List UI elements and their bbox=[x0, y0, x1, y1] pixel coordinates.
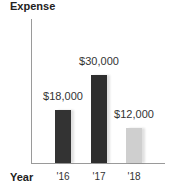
bar-2016 bbox=[55, 110, 71, 163]
x-axis-title: Year bbox=[10, 171, 33, 183]
y-axis-line bbox=[31, 19, 32, 164]
bar-value-label-2016: $18,000 bbox=[33, 90, 93, 102]
bar-value-label-2017: $30,000 bbox=[69, 55, 129, 67]
bar-2018 bbox=[126, 128, 142, 163]
bar-value-label-2018: $12,000 bbox=[104, 108, 164, 120]
x-axis-line bbox=[31, 163, 165, 164]
x-tick-2017: '17 bbox=[84, 171, 114, 182]
x-tick-2018: '18 bbox=[119, 171, 149, 182]
chart-title: Expense bbox=[10, 0, 55, 12]
x-tick-2016: '16 bbox=[48, 171, 78, 182]
